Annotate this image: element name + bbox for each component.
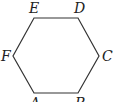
vertex-label-a: A bbox=[28, 95, 40, 102]
hexagon-diagram: A B C D E F bbox=[0, 0, 114, 102]
vertex-label-d: D bbox=[73, 0, 85, 16]
vertex-label-c: C bbox=[102, 48, 113, 64]
vertex-label-b: B bbox=[74, 95, 85, 102]
vertex-label-e: E bbox=[28, 0, 39, 16]
hexagon-shape bbox=[13, 18, 99, 93]
vertex-label-f: F bbox=[0, 48, 12, 64]
